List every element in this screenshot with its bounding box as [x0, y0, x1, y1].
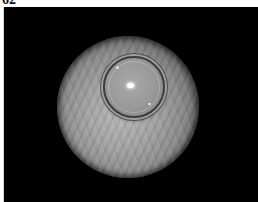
specular-highlight [127, 83, 134, 88]
figure-label: 62 [2, 0, 16, 7]
specular-highlight-tiny [116, 66, 119, 69]
specular-highlight-small [148, 103, 151, 105]
bubble [103, 56, 165, 118]
